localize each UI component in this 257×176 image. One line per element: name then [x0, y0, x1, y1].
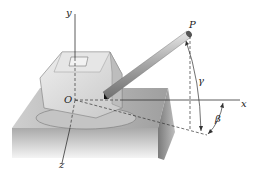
y-axis-label: y	[66, 8, 72, 18]
gamma-arc	[186, 41, 201, 131]
x-axis-label: x	[241, 99, 247, 109]
diagram-canvas	[0, 0, 257, 176]
gamma-label: γ	[198, 76, 204, 86]
point-p-label: P	[189, 20, 196, 30]
turret-body	[40, 52, 122, 118]
beta-label: β	[215, 114, 221, 124]
z-axis-label: z	[59, 160, 64, 170]
origin-label: O	[64, 95, 72, 105]
turret-diagram: y x z O P γ β	[0, 0, 257, 176]
